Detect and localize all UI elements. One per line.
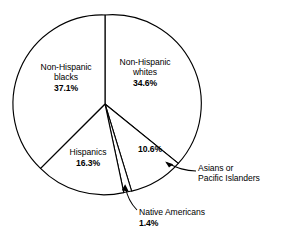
pie-chart-graphic xyxy=(0,0,285,242)
callout-label-line2: Pacific Islanders xyxy=(198,173,284,183)
slice-label-value: 16.3% xyxy=(53,158,123,168)
slice-label-hispanics: Hispanics 16.3% xyxy=(53,147,123,168)
slice-label-value: 34.6% xyxy=(107,78,183,88)
slice-label-non-hispanic-whites: Non-Hispanic whites 34.6% xyxy=(107,57,183,88)
slice-label-name: Hispanics xyxy=(53,147,123,157)
pie-chart: Non-Hispanic whites 34.6% Non-Hispanic b… xyxy=(0,0,285,242)
slice-label-name-line2: whites xyxy=(107,67,183,77)
callout-label-native-americans: Native Americans 1.4% xyxy=(139,207,247,228)
slice-label-value: 10.6% xyxy=(128,144,172,154)
slice-label-name-line1: Non-Hispanic xyxy=(107,57,183,67)
callout-label-line1: Asians or xyxy=(198,163,284,173)
slice-label-non-hispanic-blacks: Non-Hispanic blacks 37.1% xyxy=(24,62,108,93)
callout-label-value: 1.4% xyxy=(139,218,247,228)
slice-label-name-line2: blacks xyxy=(24,72,108,82)
slice-label-value: 37.1% xyxy=(24,83,108,93)
slice-label-name-line1: Non-Hispanic xyxy=(24,62,108,72)
callout-label-name: Native Americans xyxy=(139,207,247,217)
callout-label-asians-pacific-islanders: Asians or Pacific Islanders xyxy=(198,163,284,183)
slice-label-asians-value: 10.6% xyxy=(128,143,172,154)
